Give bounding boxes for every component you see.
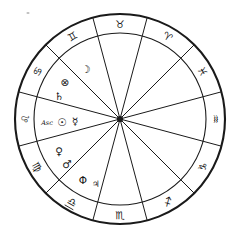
sign-divider-3 [93, 202, 98, 220]
astrology-chart: ♉♊♋♌♍♎♏♐♑♒♓♈ ☽⊗♄Asc☉☿♀♂Φ♃ [0, 0, 232, 241]
sign-divider-7 [46, 45, 59, 58]
planet-glyph-jupiter: ♃ [92, 179, 100, 189]
sign-divider-1 [181, 180, 194, 193]
sign-glyph-aries: ♈ [161, 29, 175, 44]
planet-glyph-mercury: ☿ [72, 115, 78, 127]
chart-wheel-canvas: ♉♊♋♌♍♎♏♐♑♒♓♈ ☽⊗♄Asc☉☿♀♂Φ♃ [0, 0, 232, 241]
sign-glyph-libra: ♎ [65, 194, 79, 209]
sign-divider-4 [46, 180, 59, 193]
sign-glyph-taurus: ♉ [115, 18, 124, 30]
sign-glyph-scorpio: ♏ [115, 209, 125, 221]
chart-center-hub [117, 116, 123, 122]
sign-glyph-sagittarius: ♐ [161, 194, 175, 209]
house-cusp-6 [37, 97, 120, 119]
sign-glyph-pisces: ♓ [195, 64, 210, 78]
planet-glyph-phi-point: Φ [79, 174, 87, 186]
sign-divider-5 [19, 141, 37, 146]
house-cusp-4 [59, 119, 120, 180]
sign-glyph-virgo: ♍ [30, 160, 45, 174]
sign-glyph-aquarius: ♒ [210, 114, 222, 123]
planet-glyph-ascendant: Asc [40, 119, 53, 127]
sign-glyph-capricorn: ♑ [195, 160, 210, 174]
house-cusp-10 [120, 58, 181, 119]
planet-glyph-part-of-fortune: ⊗ [61, 76, 70, 88]
sign-divider-6 [19, 92, 37, 97]
house-cusp-0 [120, 119, 203, 141]
sign-divider-2 [142, 202, 147, 220]
sign-divider-11 [203, 92, 221, 97]
page-speck [26, 12, 29, 14]
sign-divider-8 [93, 18, 98, 36]
planet-glyph-venus: ♀ [55, 145, 63, 157]
house-cusp-8 [98, 36, 120, 119]
house-cusp-9 [120, 36, 142, 119]
sign-divider-0 [203, 141, 221, 146]
planet-glyph-sun: ☉ [57, 116, 66, 128]
sign-glyph-leo: ♌ [19, 114, 31, 123]
house-cusp-2 [120, 119, 142, 202]
house-cusp-1 [120, 119, 181, 180]
sign-glyph-gemini: ♊ [65, 29, 79, 44]
house-cusp-3 [98, 119, 120, 202]
sign-divider-10 [181, 45, 194, 58]
planet-glyph-saturn: ♄ [54, 90, 63, 102]
house-cusp-11 [120, 97, 203, 119]
sign-divider-9 [142, 18, 147, 36]
planet-glyph-moon: ☽ [81, 63, 90, 75]
planet-glyph-group: ☽⊗♄Asc☉☿♀♂Φ♃ [40, 63, 100, 189]
planet-glyph-mars: ♂ [62, 158, 71, 170]
sign-glyph-cancer: ♋ [30, 64, 45, 78]
